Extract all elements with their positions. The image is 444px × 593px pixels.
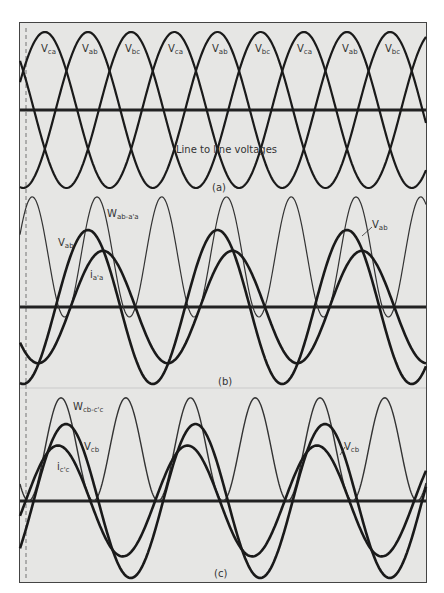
trace-label-vbc: Vbc — [125, 43, 140, 56]
trace-label-vab: Vab — [58, 237, 74, 250]
trace-label-w-cb: Wcb-c'c — [73, 401, 103, 414]
trace-label-vcb: Vcb — [84, 441, 100, 454]
panel-c-labels: Wcb-c'c Vcb ic'c Vcb (c) — [57, 401, 360, 579]
trace-label-vab: Vab — [342, 43, 358, 56]
trace-label-vab: Vab — [82, 43, 98, 56]
panel-a-label: (a) — [212, 182, 226, 193]
trace-label-vca: Vca — [41, 43, 56, 56]
panel-a-caption: Line to line voltages — [176, 144, 277, 155]
trace-label-w-ab: Wab-a'a — [107, 208, 139, 221]
trace-label-vca: Vca — [297, 43, 312, 56]
trace-label-vcb-right: Vcb — [344, 441, 360, 454]
trace-label-vbc: Vbc — [385, 43, 400, 56]
panel-c — [20, 398, 426, 578]
oscillogram-plot: Vca Vab Vbc Vca Vab Vbc Vca Vab Vbc Line… — [0, 0, 444, 593]
trace-label-vbc: Vbc — [255, 43, 270, 56]
trace-label-vca: Vca — [168, 43, 183, 56]
trace-label-vab-right: Vab — [372, 219, 388, 232]
trace-label-i-cc: ic'c — [57, 461, 70, 474]
panel-c-label: (c) — [214, 568, 227, 579]
panel-b-label: (b) — [218, 376, 232, 387]
panel-b — [20, 197, 426, 384]
trace-label-i-aa: ia'a — [90, 269, 103, 282]
trace-label-vab: Vab — [212, 43, 228, 56]
oscillogram-figure: Vca Vab Vbc Vca Vab Vbc Vca Vab Vbc Line… — [0, 0, 444, 593]
